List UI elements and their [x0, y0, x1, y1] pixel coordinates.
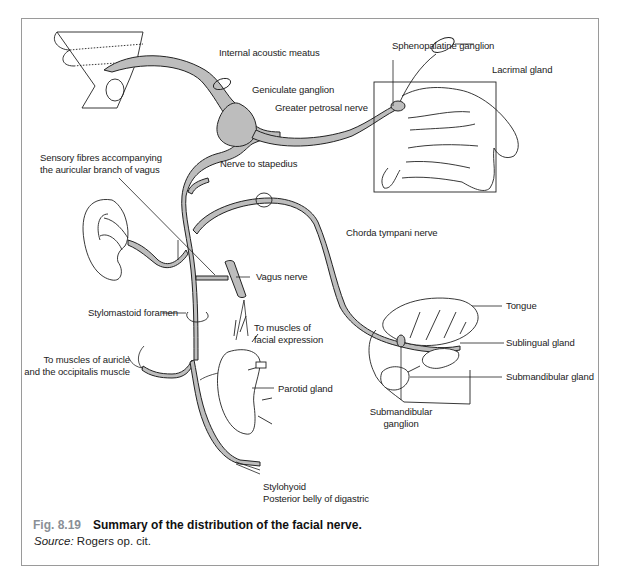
- label-auricle-muscles-2: and the occipitalis muscle: [20, 366, 130, 377]
- label-lacrimal-gland: Lacrimal gland: [492, 64, 552, 75]
- label-sublingual-gland: Sublingual gland: [506, 337, 575, 348]
- temporal-bone-icon: [54, 32, 143, 108]
- label-chorda-tympani-nerve: Chorda tympani nerve: [346, 227, 437, 238]
- figure-caption: Fig. 8.19Summary of the distribution of …: [33, 518, 362, 532]
- label-tongue: Tongue: [506, 300, 537, 311]
- label-parotid-gland: Parotid gland: [278, 383, 333, 394]
- label-submandibular-ganglion-1: Submandibular: [366, 406, 436, 417]
- label-vagus-nerve: Vagus nerve: [256, 271, 308, 282]
- nasal-cavity-icon: [374, 34, 518, 192]
- figure-number: Fig. 8.19: [33, 518, 81, 532]
- source-prefix: Source:: [34, 535, 74, 547]
- label-geniculate-ganglion: Geniculate ganglion: [252, 84, 334, 95]
- figure-source: Source: Rogers op. cit.: [34, 535, 151, 547]
- label-submandibular-gland: Submandibular gland: [506, 371, 594, 382]
- source-text: Rogers op. cit.: [77, 535, 151, 547]
- label-sensory-fibres-1: Sensory fibres accompanying: [40, 152, 152, 163]
- ear-icon: [83, 199, 128, 280]
- label-stylohyoid: Stylohyoid: [263, 481, 306, 492]
- label-facial-expression-2: facial expression: [254, 334, 323, 345]
- label-sphenopalatine-ganglion: Sphenopalatine ganglion: [392, 40, 494, 51]
- label-greater-petrosal-nerve: Greater petrosal nerve: [275, 102, 368, 113]
- label-posterior-belly-digastric: Posterior belly of digastric: [263, 493, 369, 504]
- submandibular-ganglion-shape: [397, 335, 405, 347]
- label-nerve-to-stapedius: Nerve to stapedius: [220, 158, 297, 169]
- label-internal-acoustic-meatus: Internal acoustic meatus: [219, 47, 320, 58]
- figure-title: Summary of the distribution of the facia…: [93, 518, 362, 532]
- label-sensory-fibres-2: the auricular branch of vagus: [40, 164, 152, 175]
- label-facial-expression-1: To muscles of: [254, 322, 311, 333]
- label-stylomastoid-foramen: Stylomastoid foramen: [88, 307, 178, 318]
- label-auricle-muscles-1: To muscles of auricle: [20, 354, 130, 365]
- parotid-gland-shape: [217, 350, 260, 434]
- label-submandibular-ganglion-2: ganglion: [366, 418, 436, 429]
